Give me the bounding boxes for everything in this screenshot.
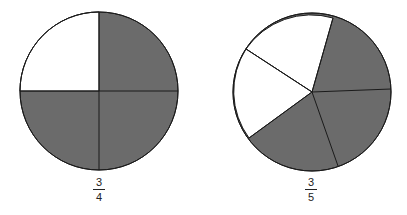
circle-three-quarters	[20, 12, 178, 170]
circle-three-fifths	[233, 13, 391, 171]
fraction-label-right: 3 5	[301, 176, 321, 203]
fraction-bar	[305, 189, 317, 190]
fraction-bar	[93, 189, 105, 190]
fraction-label-left: 3 4	[89, 176, 109, 203]
fraction-circles	[0, 0, 407, 215]
denominator: 4	[96, 191, 102, 203]
numerator: 3	[96, 176, 102, 188]
numerator: 3	[308, 176, 314, 188]
denominator: 5	[308, 191, 314, 203]
